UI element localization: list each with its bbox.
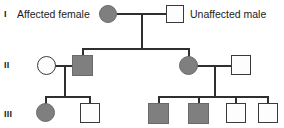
individual-iii-1-affected-female xyxy=(36,103,55,122)
individual-iii-5-unaffected-male xyxy=(226,103,246,123)
sibship-bar-gen3-left xyxy=(45,96,90,98)
generation-label-iii: III xyxy=(4,110,12,119)
legend-label-unaffected-male: Unaffected male xyxy=(190,9,266,20)
individual-iii-6-unaffected-male xyxy=(258,103,278,123)
individual-ii-2-affected-male xyxy=(72,55,93,76)
individual-ii-1-unaffected-female xyxy=(37,56,56,75)
individual-i-1-affected-female xyxy=(99,5,117,23)
sibship-drop-gen2-right xyxy=(214,65,216,97)
legend-label-affected-female: Affected female xyxy=(17,9,90,20)
sibship-bar-gen3-right xyxy=(158,96,268,98)
sibship-bar-gen2 xyxy=(82,48,188,50)
sibship-drop-gen1 xyxy=(141,13,143,49)
generation-label-ii: II xyxy=(4,61,9,70)
individual-iii-2-unaffected-male xyxy=(80,103,100,123)
individual-ii-4-unaffected-male xyxy=(231,55,251,75)
individual-i-2-unaffected-male xyxy=(166,5,184,23)
generation-label-i: I xyxy=(4,10,7,19)
sibship-drop-gen2-left xyxy=(64,65,66,97)
individual-ii-3-affected-female xyxy=(179,56,198,75)
individual-iii-3-affected-male xyxy=(148,103,169,124)
pedigree-chart: I II III Affected female Unaffected male xyxy=(0,0,284,128)
individual-iii-4-affected-male xyxy=(188,103,209,124)
